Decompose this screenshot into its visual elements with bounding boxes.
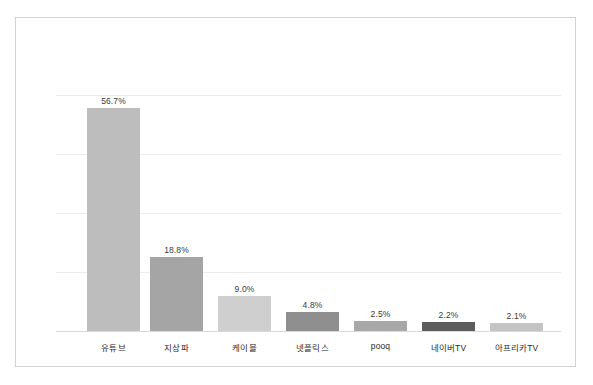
category-slot: pooq — [354, 332, 407, 362]
category-slot: 유튜브 — [87, 332, 140, 362]
category-label-pooq: pooq — [371, 341, 390, 351]
bars-layer: 56.7% 18.8% 9.0% 4.8% 2.5% 2.2% — [56, 56, 561, 331]
bar-value-label: 56.7% — [101, 96, 126, 106]
bar-value-label: 9.0% — [235, 284, 255, 294]
category-label-afreecatv: 아프리카TV — [495, 341, 538, 353]
category-slot: 케이블 — [218, 332, 271, 362]
bar-rect[interactable] — [490, 323, 543, 331]
bar-rect[interactable] — [422, 322, 475, 331]
chart-frame: 56.7% 18.8% 9.0% 4.8% 2.5% 2.2% — [15, 17, 576, 367]
bar-rect[interactable] — [150, 257, 203, 331]
bar-value-label: 4.8% — [303, 300, 323, 310]
category-slot: 아프리카TV — [490, 332, 543, 362]
bar-rect[interactable] — [218, 296, 271, 331]
bar-value-label: 2.2% — [439, 310, 459, 320]
category-label-netflix: 넷플릭스 — [296, 341, 328, 353]
bar-value-label: 2.5% — [371, 309, 391, 319]
category-label-terrestrial: 지상파 — [164, 341, 188, 353]
category-label-navertv: 네이버TV — [431, 341, 466, 353]
bar-rect[interactable] — [87, 108, 140, 331]
category-slot: 네이버TV — [422, 332, 475, 362]
plot-area: 56.7% 18.8% 9.0% 4.8% 2.5% 2.2% — [56, 56, 561, 332]
bar-rect[interactable] — [286, 312, 339, 331]
category-axis: 유튜브 지상파 케이블 넷플릭스 pooq 네이버TV 아프리카TV — [56, 332, 561, 362]
bar-value-label: 2.1% — [507, 311, 527, 321]
category-label-cable: 케이블 — [232, 341, 256, 353]
bar-rect[interactable] — [354, 321, 407, 331]
category-slot: 지상파 — [150, 332, 203, 362]
category-label-youtube: 유튜브 — [101, 341, 125, 353]
category-slot: 넷플릭스 — [286, 332, 339, 362]
bar-value-label: 18.8% — [164, 245, 189, 255]
